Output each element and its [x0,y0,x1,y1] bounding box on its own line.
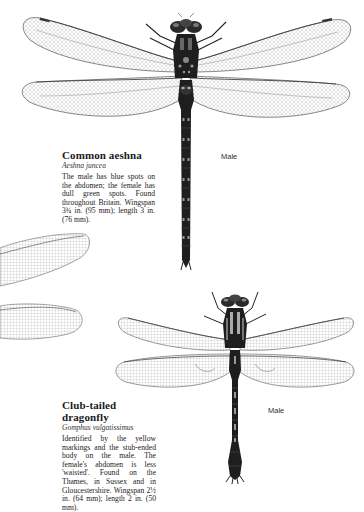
species-caption-common-aeshna: Common aeshna Aeshna juncea The male has… [62,149,155,225]
hindwing-left-icon [116,354,230,387]
head-icon [221,295,249,308]
species-description: The male has blue spots on the abdomen; … [62,173,155,225]
forewing-right-icon [240,318,354,351]
hindwing-left-icon [22,76,182,116]
partial-wings-left-edge [0,234,90,340]
species-description: Identified by the yellow markings and th… [62,435,156,512]
latin-name: Gomphus vulgatissimus [62,423,156,432]
hindwing-right-icon [240,354,354,387]
forewing-right-icon [190,18,351,72]
hindwing-right-icon [190,76,350,117]
forewing-left-icon [118,318,230,351]
forewing-left-icon [23,18,182,72]
latin-name: Aeshna juncea [62,161,155,170]
common-aeshna-illustration [22,13,351,270]
species-caption-club-tailed-dragonfly: Club-tailed dragonfly Gomphus vulgatissi… [62,399,156,512]
species-title: Common aeshna [62,149,155,161]
thorax-icon [173,34,199,78]
head-icon [170,13,202,33]
thorax-icon [223,308,247,348]
species-title: Club-tailed dragonfly [62,399,156,423]
sex-label: Male [221,152,237,161]
abdomen-icon [178,80,194,270]
sex-label: Male [268,406,284,415]
